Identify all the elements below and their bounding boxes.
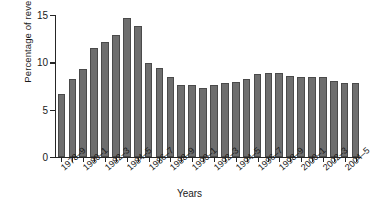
bar xyxy=(134,26,142,157)
bar xyxy=(101,42,109,157)
y-tick-mark xyxy=(50,110,56,111)
bar xyxy=(156,68,164,157)
bar xyxy=(243,79,251,157)
bar xyxy=(286,76,294,157)
y-tick-mark xyxy=(50,157,56,158)
bar xyxy=(123,18,131,157)
bar xyxy=(330,81,338,157)
y-tick-label: 5 xyxy=(42,104,48,115)
y-tick-label: 0 xyxy=(42,152,48,163)
x-axis-title: Years xyxy=(0,188,379,199)
bar xyxy=(177,85,185,157)
bar-chart: Percentage of revenue 051015 1978–91980–… xyxy=(0,0,379,208)
plot-area: 051015 1978–91980–11982–31984–51986–7198… xyxy=(56,15,361,157)
bar xyxy=(275,73,283,157)
bar xyxy=(221,83,229,157)
bar-series xyxy=(56,15,361,157)
bar xyxy=(199,88,207,157)
y-tick-mark xyxy=(50,62,56,63)
bar xyxy=(90,48,98,157)
bar xyxy=(352,83,360,157)
bar xyxy=(112,35,120,157)
bar xyxy=(308,77,316,157)
bar xyxy=(69,79,77,157)
y-axis-title: Percentage of revenue xyxy=(22,0,33,104)
bar xyxy=(79,69,87,157)
bar xyxy=(58,94,66,157)
bar xyxy=(145,63,153,157)
bar xyxy=(265,73,273,157)
y-tick-mark xyxy=(50,15,56,16)
y-tick-label: 10 xyxy=(37,57,48,68)
y-tick-label: 15 xyxy=(37,10,48,21)
